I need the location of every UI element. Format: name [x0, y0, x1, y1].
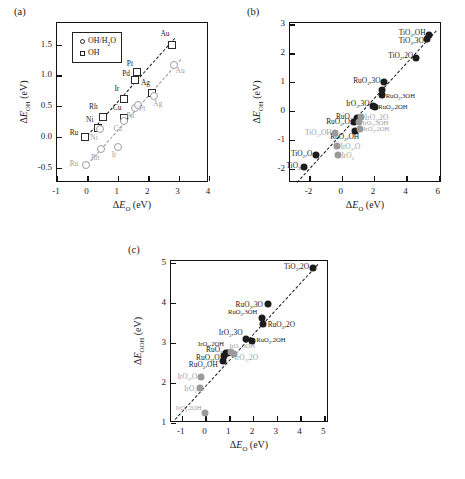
data-point-label: Pd: [122, 70, 130, 77]
panel-a-xaxis-title: ΔEO (eV): [113, 199, 151, 212]
panel-a-ytick: [57, 106, 62, 107]
data-point-label: IrO2,3O: [219, 329, 243, 339]
panel-c-xtick: [229, 416, 230, 421]
panel-b-ytick: [290, 82, 295, 83]
data-point-label: Ag: [141, 79, 150, 86]
panel-c-xtick: [205, 416, 206, 421]
panel-b-xtick: [342, 176, 343, 181]
panel-c-ytick: [171, 343, 176, 344]
panel-c-yticklabel: 4: [140, 297, 166, 307]
data-point-label: IrO2,O: [177, 373, 197, 383]
panel-b-yticklabel: 3: [259, 18, 285, 28]
data-point: [96, 125, 104, 133]
data-point-label: RuO2,3OH: [228, 309, 257, 318]
panel-a-yticklabel: -0.5: [26, 162, 52, 172]
data-point-label: Ir: [112, 151, 117, 158]
data-point-label: Ag: [153, 100, 162, 107]
data-point-label: RuO2,2OH: [256, 337, 285, 346]
data-point: [201, 409, 208, 416]
data-point-label: TiO2,O: [291, 150, 312, 160]
panel-b-ytick: [290, 53, 295, 54]
data-point-label: IrO2: [341, 152, 354, 162]
panel-a-ytick: [57, 137, 62, 138]
data-point-label: TiO2,OH: [305, 129, 332, 139]
data-point: [120, 95, 128, 103]
data-point-label: Cu: [113, 125, 122, 132]
data-point: [99, 113, 107, 121]
panel-b-xticklabel: 0: [338, 186, 343, 196]
data-point: [357, 113, 364, 120]
data-point: [133, 68, 141, 76]
data-point: [168, 41, 176, 49]
panel-c-yticklabel: 5: [140, 257, 166, 267]
panel-a-xtick: [57, 176, 58, 181]
data-point-label: Ru: [70, 160, 79, 167]
data-point-label: IrO2,3O: [346, 100, 370, 110]
square-marker-icon: [77, 51, 88, 57]
legend-item: OH: [77, 48, 116, 59]
panel-a-legend: OH/H2OOH: [72, 32, 122, 63]
data-point-label: TiO2,OH: [399, 29, 426, 39]
panel-c-xticklabel: 4: [297, 426, 302, 436]
panel-a-xticklabel: 0: [84, 186, 89, 196]
data-point-label: TiO2: [286, 162, 300, 172]
panel-a-yticklabel: 1.5: [26, 39, 52, 49]
figure-root: (a)RuNiRhIrCuPdPtAgAuRuRhNiIrCuPdPtAgAu-…: [0, 0, 465, 479]
panel-b: (b)TiO2TiO2,ORuO2,OHRuO2,ORuO2IrO2,3ORuO…: [233, 0, 465, 240]
data-point: [82, 161, 90, 169]
data-point-label: Rh: [89, 103, 98, 110]
data-point-label: RuO2,3OH: [386, 93, 415, 102]
data-point-label: RuO2,3O: [353, 77, 380, 87]
data-point-label: Ir: [114, 85, 119, 92]
data-point-label: TiO2,3O: [399, 37, 424, 47]
data-point-label: Cu: [113, 104, 122, 111]
panel-a-ytick: [57, 75, 62, 76]
panel-a-ytick: [57, 168, 62, 169]
panel-b-yticklabel: -2: [259, 163, 285, 173]
data-point-label: Ru: [70, 129, 79, 136]
data-point-label: Au: [160, 30, 169, 37]
panel-a: (a)RuNiRhIrCuPdPtAgAuRuRhNiIrCuPdPtAgAu-…: [0, 0, 233, 240]
data-point-label: IrO2,O: [340, 143, 360, 153]
data-point: [413, 55, 420, 62]
panel-c-yticklabel: 1: [140, 417, 166, 427]
panel-c-xticklabel: 0: [202, 426, 207, 436]
data-point: [378, 87, 385, 94]
panel-a-xticklabel: 3: [175, 186, 180, 196]
data-point: [312, 151, 319, 158]
panel-a-yticklabel: 1.0: [26, 69, 52, 79]
panel-c-xtick: [324, 416, 325, 421]
data-point-label: IrO2,2OH: [176, 405, 202, 414]
panel-a-xtick: [179, 176, 180, 181]
panel-b-xtick: [406, 176, 407, 181]
panel-b-ytick: [290, 24, 295, 25]
panel-c-xticklabel: 1: [226, 426, 231, 436]
panel-c-ytick: [171, 263, 176, 264]
panel-c-xtick: [300, 416, 301, 421]
panel-b-plot-area: TiO2TiO2,ORuO2,OHRuO2,ORuO2IrO2,3ORuO2,2…: [290, 23, 440, 181]
data-point-label: Pt: [127, 60, 133, 67]
panel-c-ytick: [171, 423, 176, 424]
panel-b-yticklabel: -1: [259, 134, 285, 144]
panel-b-xticklabel: 6: [436, 186, 441, 196]
data-point-label: Pd: [126, 112, 134, 119]
panel-b-plot-frame: TiO2TiO2,ORuO2,OHRuO2,ORuO2IrO2,3ORuO2,2…: [289, 22, 441, 182]
panel-c-xticklabel: 2: [250, 426, 255, 436]
data-point: [258, 315, 265, 322]
legend-item: OH/H2O: [77, 36, 116, 48]
panel-c-xticklabel: -1: [177, 426, 185, 436]
data-point-label: IrO2,2O: [365, 114, 389, 124]
panel-c-plot-area: RuO2,OHRuO2,ORuO2IrO2,2OHIrO2,3ORuO2,2OH…: [171, 261, 327, 421]
panel-c-xticklabel: 3: [273, 426, 278, 436]
panel-c-yaxis-title: ΔEOOH (eV): [132, 317, 145, 365]
data-point-label: RuO2,2OH: [378, 104, 407, 113]
panel-c-xtick: [182, 416, 183, 421]
panel-b-xtick: [439, 176, 440, 181]
circle-marker-icon: [77, 39, 88, 44]
legend-item-label: OH: [88, 48, 100, 59]
data-point: [332, 130, 339, 137]
data-point: [198, 374, 205, 381]
panel-b-xaxis-title: ΔEO (eV): [346, 199, 384, 212]
panel-c-xaxis-title: ΔEO (eV): [230, 439, 268, 452]
panel-b-tag: (b): [247, 6, 259, 17]
